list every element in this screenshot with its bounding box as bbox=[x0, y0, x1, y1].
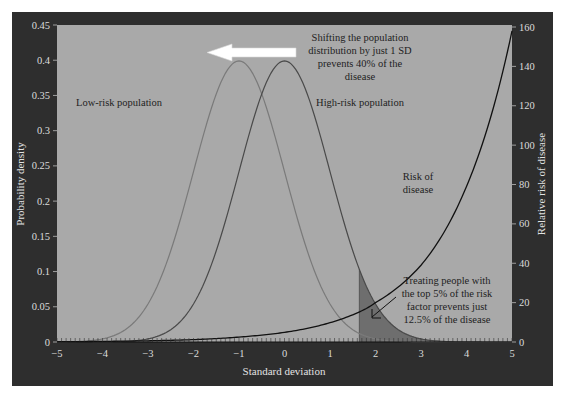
annotation-line: factor prevents just bbox=[407, 301, 488, 312]
x-tick-label: −1 bbox=[233, 348, 244, 359]
annotation-line: Shifting the population bbox=[312, 32, 410, 43]
x-tick-label: 3 bbox=[418, 348, 423, 359]
y2-tick-label: 140 bbox=[519, 61, 535, 72]
annotation-line: the top 5% of the risk bbox=[402, 288, 493, 299]
figure-caption-strip bbox=[0, 388, 565, 397]
x-axis-minor-ticks bbox=[57, 338, 512, 342]
x-tick-label: 2 bbox=[373, 348, 378, 359]
y-tick-label: 0.45 bbox=[32, 20, 50, 31]
right-y-axis-title: Relative risk of disease bbox=[535, 133, 547, 235]
x-tick-label: 1 bbox=[327, 348, 332, 359]
label-high-risk-population: High-risk population bbox=[316, 97, 405, 108]
y-tick-label: 0.35 bbox=[32, 90, 50, 101]
x-axis-tick-labels: −5−4−3−2−1012345 bbox=[51, 348, 514, 359]
y-tick-label: 0.1 bbox=[37, 266, 50, 277]
y2-tick-label: 20 bbox=[519, 297, 530, 308]
x-tick-label: −3 bbox=[142, 348, 153, 359]
annotation-line: Low-risk population bbox=[76, 97, 163, 108]
y2-tick-label: 80 bbox=[519, 179, 530, 190]
y2-tick-label: 100 bbox=[519, 140, 535, 151]
x-tick-label: −5 bbox=[51, 348, 62, 359]
annotation-line: disease bbox=[403, 184, 434, 195]
y-tick-label: 0.4 bbox=[37, 55, 51, 66]
y2-tick-label: 120 bbox=[519, 100, 535, 111]
y-tick-label: 0.3 bbox=[37, 125, 50, 136]
y2-tick-label: 60 bbox=[519, 218, 530, 229]
annotation-line: Treating people with bbox=[403, 275, 491, 286]
x-axis-title: Standard deviation bbox=[243, 365, 326, 377]
annotation-line: distribution by just 1 SD bbox=[308, 45, 412, 56]
annotation-line: 12.5% of the disease bbox=[404, 314, 491, 325]
y-tick-label: 0.05 bbox=[32, 301, 50, 312]
y2-tick-label: 0 bbox=[519, 337, 524, 348]
x-tick-label: −4 bbox=[97, 348, 109, 359]
annotation-line: High-risk population bbox=[316, 97, 405, 108]
annotation-line: disease bbox=[345, 71, 376, 82]
label-low-risk-population: Low-risk population bbox=[76, 97, 163, 108]
y-tick-label: 0.2 bbox=[37, 196, 50, 207]
left-y-axis-tick-labels: 00.050.10.150.20.250.30.350.40.45 bbox=[32, 20, 57, 348]
y-tick-label: 0.25 bbox=[32, 160, 50, 171]
y-tick-label: 0.15 bbox=[32, 231, 50, 242]
x-tick-label: 0 bbox=[282, 348, 287, 359]
y2-tick-label: 40 bbox=[519, 258, 530, 269]
annotation-line: prevents 40% of the bbox=[318, 58, 403, 69]
x-tick-label: −2 bbox=[188, 348, 199, 359]
y-tick-label: 0 bbox=[45, 337, 50, 348]
right-y-axis-tick-labels: 020406080100120140160 bbox=[512, 22, 535, 348]
left-y-axis-title: Probability density bbox=[14, 142, 26, 226]
y2-tick-label: 160 bbox=[519, 22, 535, 33]
chart: −5−4−3−2−1012345 00.050.10.150.20.250.30… bbox=[0, 0, 565, 397]
x-tick-label: 4 bbox=[464, 348, 470, 359]
x-tick-label: 5 bbox=[509, 348, 514, 359]
annotation-line: Risk of bbox=[403, 171, 434, 182]
